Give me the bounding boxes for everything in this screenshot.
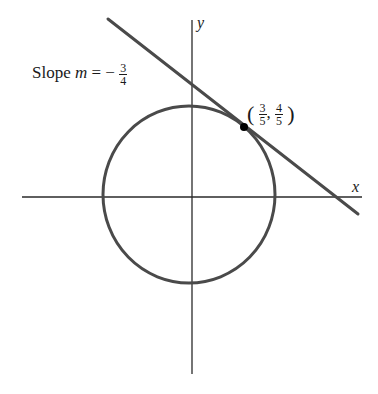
unit-circle	[103, 106, 275, 283]
point-separator: ,	[267, 103, 271, 122]
point-x-numerator: 3	[259, 102, 267, 115]
point-y-denominator: 5	[275, 115, 283, 127]
unit-circle-tangent-figure: y x Slope m = − 3 4 ( 3 5 , 4 5 )	[0, 0, 378, 394]
slope-equals: = −	[87, 63, 115, 82]
slope-label: Slope m = − 3 4	[32, 62, 127, 87]
slope-variable: m	[75, 63, 87, 82]
point-open-paren: (	[247, 101, 254, 126]
point-y-numerator: 4	[275, 102, 283, 115]
point-x-fraction: 3 5	[259, 102, 267, 127]
slope-fraction: 3 4	[119, 62, 127, 87]
slope-prefix: Slope	[32, 63, 75, 82]
figure-canvas	[0, 0, 378, 394]
point-label: ( 3 5 , 4 5 )	[247, 101, 295, 127]
point-y-fraction: 4 5	[275, 102, 283, 127]
point-close-paren: )	[287, 101, 294, 126]
x-axis-label: x	[352, 178, 359, 196]
slope-denominator: 4	[119, 75, 127, 87]
y-axis-label: y	[197, 14, 204, 32]
point-x-denominator: 5	[259, 115, 267, 127]
